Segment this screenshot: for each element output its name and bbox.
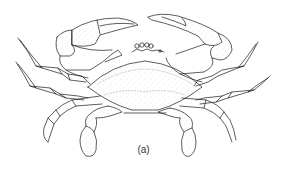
crab-figure: (a) bbox=[0, 0, 287, 185]
carapace bbox=[88, 61, 202, 113]
crab-illustration bbox=[0, 0, 287, 185]
figure-caption: (a) bbox=[0, 144, 287, 155]
eye-region bbox=[132, 43, 164, 52]
